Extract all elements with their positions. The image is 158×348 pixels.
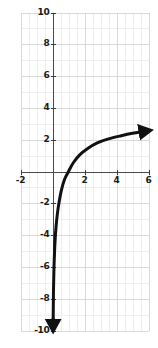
y-tick-label: 8 <box>34 39 50 48</box>
plot-area <box>0 0 158 348</box>
x-tick-label: 2 <box>76 176 94 185</box>
x-tick-label: -2 <box>12 176 30 185</box>
logarithmic-curve <box>53 132 142 323</box>
y-tick-label: -4 <box>34 230 50 239</box>
x-tick-label: 4 <box>108 176 126 185</box>
x-tick-label: 6 <box>140 176 158 185</box>
y-tick-label: -10 <box>34 326 50 335</box>
minor-gridlines <box>21 13 149 331</box>
y-tick-label: 10 <box>34 8 50 17</box>
y-tick-label: -2 <box>34 198 50 207</box>
coordinate-graph: -10-8-6-4-2246810 -2246 <box>0 0 158 348</box>
y-tick-label: 2 <box>34 135 50 144</box>
y-tick-label: 4 <box>34 103 50 112</box>
y-tick-label: 6 <box>34 71 50 80</box>
y-tick-label: -8 <box>34 294 50 303</box>
y-tick-label: -6 <box>34 262 50 271</box>
